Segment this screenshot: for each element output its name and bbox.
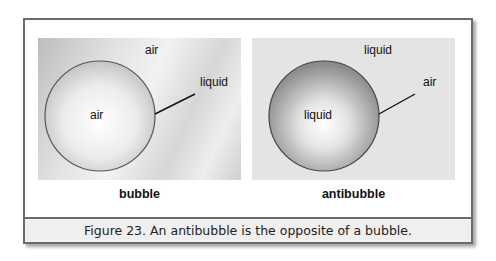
antibubble-diagram: liquid air liquid — [252, 38, 455, 180]
pointer-label: liquid — [200, 75, 228, 89]
bubble-panel: air liquid air — [38, 38, 241, 180]
figure-frame: air liquid air liquid air liquid bubble … — [23, 18, 473, 244]
pointer-label: air — [423, 75, 436, 89]
pointer-line — [155, 94, 195, 114]
outside-label: air — [145, 43, 158, 57]
bubble-diagram: air liquid air — [38, 38, 241, 180]
inside-label: air — [90, 108, 103, 122]
antibubble-panel: liquid air liquid — [252, 38, 455, 180]
outside-label: liquid — [364, 43, 392, 57]
antibubble-title: antibubble — [252, 187, 455, 201]
inside-label: liquid — [304, 108, 332, 122]
bubble-title: bubble — [38, 187, 241, 201]
figure-caption: Figure 23. An antibubble is the opposite… — [25, 217, 471, 242]
pointer-line — [379, 94, 415, 114]
